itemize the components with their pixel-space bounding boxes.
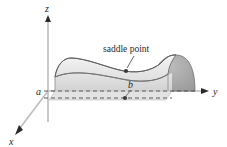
base-projection-marker	[123, 96, 127, 100]
z-axis-label: z	[44, 3, 49, 14]
label-b: b	[128, 79, 133, 90]
surface-base-strip	[49, 91, 172, 100]
x-axis-label: x	[8, 136, 14, 147]
z-axis-arrowhead	[45, 15, 51, 22]
x-axis-line	[20, 91, 48, 128]
label-a: a	[36, 86, 41, 97]
saddle-point-annotation: saddle point	[103, 44, 150, 54]
saddle-surface-group	[49, 55, 195, 100]
y-axis-arrowhead	[201, 88, 209, 94]
saddle-point-figure: saddle point z y x a b	[0, 0, 227, 147]
saddle-point-marker	[124, 69, 128, 73]
saddle-point-leader-line	[127, 56, 134, 68]
y-axis-label: y	[212, 86, 218, 97]
saddle-surface-diagram: saddle point z y x a b	[0, 0, 227, 147]
